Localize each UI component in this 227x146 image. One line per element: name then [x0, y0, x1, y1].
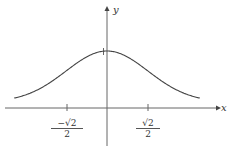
x-tick-label-pos: √2 2 [136, 118, 160, 139]
x-tick-label-neg-numerator: −√2 [51, 118, 83, 129]
x-tick-label-pos-denominator: 2 [136, 129, 160, 139]
x-tick-label-neg-denominator: 2 [51, 129, 83, 139]
x-tick-label-neg: −√2 2 [51, 118, 83, 139]
plot-area [0, 0, 227, 146]
x-tick-label-pos-numerator: √2 [136, 118, 160, 129]
y-axis-arrow-icon [105, 6, 110, 11]
x-axis-label: x [221, 102, 227, 113]
y-axis-label: y [113, 4, 119, 15]
